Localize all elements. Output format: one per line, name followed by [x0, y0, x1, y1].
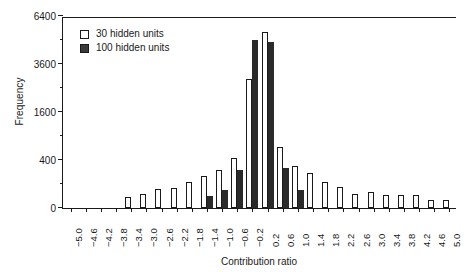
x-axis-tick-label: −1.0	[225, 228, 235, 247]
legend-swatch-light	[80, 30, 89, 39]
bar-category-group	[169, 18, 184, 208]
x-axis-tick	[374, 208, 375, 212]
bar-30-hidden-units	[140, 194, 146, 208]
bar-30-hidden-units	[307, 173, 313, 208]
x-axis-tick	[131, 208, 132, 212]
bar-100-hidden-units	[237, 170, 243, 208]
x-axis-tick-label: −3.4	[134, 228, 144, 247]
bar-category-group	[230, 18, 245, 208]
bar-30-hidden-units	[443, 200, 449, 208]
chart-legend: 30 hidden units100 hidden units	[80, 27, 169, 55]
x-axis-tick-label: −1.4	[210, 228, 220, 247]
x-axis-tick	[192, 208, 193, 212]
x-axis-tick-label: 2.2	[346, 234, 356, 247]
x-axis-tick	[252, 208, 253, 212]
bar-100-hidden-units	[268, 42, 274, 208]
y-axis-tick-label: 3600	[22, 60, 56, 70]
x-axis-tick-label: 4.2	[422, 234, 432, 247]
legend-swatch-dark	[80, 44, 89, 53]
bar-category-group	[215, 18, 230, 208]
bar-30-hidden-units	[186, 182, 192, 208]
bar-30-hidden-units	[337, 187, 343, 208]
legend-label: 100 hidden units	[96, 41, 169, 55]
bar-100-hidden-units	[222, 190, 228, 208]
x-axis-tick-labels: −5.0−4.6−4.2−3.8−3.4−3.0−2.6−2.2−1.8−1.4…	[62, 213, 456, 257]
bar-category-group	[260, 18, 275, 208]
x-axis-tick-label: 0.2	[271, 234, 281, 247]
y-axis-tick-label: 400	[22, 156, 56, 166]
x-axis-tick-label: −0.6	[240, 228, 250, 247]
bar-100-hidden-units	[207, 196, 213, 208]
x-axis-tick	[86, 208, 87, 212]
x-axis-tick	[116, 208, 117, 212]
bar-category-group	[245, 18, 260, 208]
x-axis-tick-label: −3.0	[149, 228, 159, 247]
x-axis-tick	[283, 208, 284, 212]
x-axis-tick	[389, 208, 390, 212]
bar-category-group	[290, 18, 305, 208]
x-axis-tick-label: 1.8	[331, 234, 341, 247]
bar-category-group	[427, 18, 442, 208]
y-axis-tick-labels: 0400160036006400	[22, 0, 56, 272]
bar-30-hidden-units	[413, 195, 419, 208]
y-axis-tick-label: 0	[22, 204, 56, 214]
x-axis-tick	[146, 208, 147, 212]
x-axis-tick-label: 1.0	[301, 234, 311, 247]
x-axis-tick	[268, 208, 269, 212]
x-axis-tick-label: 3.8	[407, 234, 417, 247]
x-axis-tick	[359, 208, 360, 212]
x-axis-tick-label: 4.6	[437, 234, 447, 247]
x-axis-tick	[222, 208, 223, 212]
bar-30-hidden-units	[155, 189, 161, 208]
bar-category-group	[442, 18, 457, 208]
bar-30-hidden-units	[383, 195, 389, 208]
bar-category-group	[412, 18, 427, 208]
x-axis-tick	[298, 208, 299, 212]
bar-category-group	[381, 18, 396, 208]
x-axis-tick	[328, 208, 329, 212]
y-axis-tick	[58, 15, 63, 16]
bar-category-group	[63, 18, 78, 208]
bar-30-hidden-units	[322, 182, 328, 208]
bar-100-hidden-units	[252, 40, 258, 208]
x-axis-tick-label: 3.4	[392, 234, 402, 247]
bar-30-hidden-units	[171, 188, 177, 208]
x-axis-tick-label: 3.0	[377, 234, 387, 247]
x-axis-tick-label: −5.0	[74, 228, 84, 247]
x-axis-tick-label: −0.2	[255, 228, 265, 247]
x-axis-tick-label: 5.0	[452, 234, 462, 247]
y-axis-tick-label: 1600	[22, 108, 56, 118]
x-axis-tick-label: 1.4	[316, 234, 326, 247]
bar-100-hidden-units	[298, 190, 304, 208]
bar-30-hidden-units	[428, 200, 434, 208]
legend-label: 30 hidden units	[96, 27, 164, 41]
x-axis-tick	[207, 208, 208, 212]
x-axis-tick-label: 0.6	[286, 234, 296, 247]
legend-item: 30 hidden units	[80, 27, 169, 41]
bar-category-group	[321, 18, 336, 208]
x-axis-tick-label: −2.6	[165, 228, 175, 247]
x-axis-tick	[404, 208, 405, 212]
bar-30-hidden-units	[398, 195, 404, 208]
bar-30-hidden-units	[352, 194, 358, 208]
bar-30-hidden-units	[125, 197, 131, 208]
x-axis-tick-label: −2.2	[180, 228, 190, 247]
x-axis-tick	[343, 208, 344, 212]
bar-category-group	[366, 18, 381, 208]
y-axis-tick-label: 6400	[22, 12, 56, 22]
x-axis-tick	[177, 208, 178, 212]
bar-category-group	[351, 18, 366, 208]
x-axis-tick-label: 2.6	[362, 234, 372, 247]
x-axis-tick	[419, 208, 420, 212]
x-axis-tick	[101, 208, 102, 212]
bar-category-group	[396, 18, 411, 208]
x-axis-label: Contribution ratio	[62, 256, 456, 267]
x-axis-tick-label: −3.8	[119, 228, 129, 247]
bar-category-group	[275, 18, 290, 208]
bar-category-group	[305, 18, 320, 208]
x-axis-tick-label: −4.6	[89, 228, 99, 247]
x-axis-tick-label: −4.2	[104, 228, 114, 247]
legend-item: 100 hidden units	[80, 41, 169, 55]
x-axis-tick	[313, 208, 314, 212]
bar-category-group	[199, 18, 214, 208]
